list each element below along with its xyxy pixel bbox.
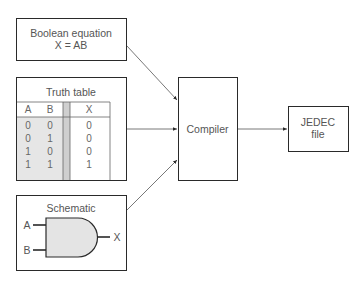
- arrow-boolean-to-compiler: [127, 46, 177, 100]
- flow-arrows: [0, 0, 359, 281]
- arrow-schematic-to-compiler: [127, 160, 177, 210]
